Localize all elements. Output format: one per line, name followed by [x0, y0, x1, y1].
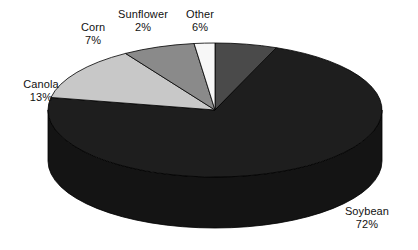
- pie-label-sunflower: Sunflower 2%: [112, 8, 174, 33]
- pie-label-canola-name: Canola: [12, 78, 70, 91]
- pie-top-face: [48, 43, 382, 177]
- pie-label-sunflower-name: Sunflower: [112, 8, 174, 21]
- pie-label-sunflower-value: 2%: [112, 21, 174, 34]
- pie-label-other-name: Other: [180, 8, 220, 21]
- pie-label-corn-name: Corn: [73, 21, 113, 34]
- pie-label-corn-value: 7%: [73, 34, 113, 47]
- pie-label-other: Other 6%: [180, 8, 220, 33]
- pie-label-soybean: Soybean 72%: [338, 205, 396, 230]
- pie-chart-figure: Canola 13% Corn 7% Sunflower 2% Other 6%…: [0, 0, 418, 250]
- pie-label-other-value: 6%: [180, 21, 220, 34]
- pie-label-corn: Corn 7%: [73, 21, 113, 46]
- pie-label-soybean-value: 72%: [338, 218, 396, 231]
- pie-label-canola-value: 13%: [12, 91, 70, 104]
- pie-label-canola: Canola 13%: [12, 78, 70, 103]
- pie-label-soybean-name: Soybean: [338, 205, 396, 218]
